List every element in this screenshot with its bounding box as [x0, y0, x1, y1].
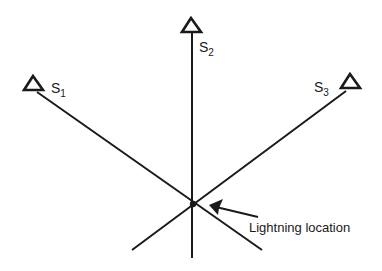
- station-s2-triangle-icon: [182, 18, 201, 32]
- annotation-arrow-shaft: [216, 207, 258, 217]
- station-s3-triangle-icon: [341, 74, 360, 88]
- station-s1-label: S1: [51, 80, 66, 99]
- station-s3-label: S3: [314, 79, 329, 98]
- bearing-line-s1: [37, 92, 262, 250]
- triangulation-diagram: S1 S2 S3 Lightning location: [0, 0, 382, 271]
- station-s2-label: S2: [199, 39, 214, 58]
- lightning-location-dot: [190, 201, 196, 207]
- annotation-arrow-head-icon: [209, 199, 223, 215]
- lightning-location-label: Lightning location: [249, 220, 350, 235]
- station-s1-triangle-icon: [24, 76, 43, 90]
